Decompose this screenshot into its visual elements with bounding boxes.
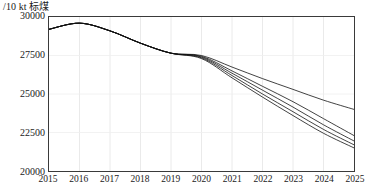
- y-axis-tick-labels: 2000022500250002750030000: [0, 0, 45, 195]
- line-chart-figure: /10 kt 标煤 2000022500250002750030000 2015…: [0, 0, 369, 195]
- series-line: [49, 23, 354, 148]
- y-axis-tick-label: 25000: [1, 89, 45, 99]
- x-axis-tick-label: 2019: [161, 174, 180, 185]
- x-axis-tick-label: 2023: [284, 174, 303, 185]
- series-line: [49, 23, 354, 145]
- y-axis-tick-label: 27500: [1, 50, 45, 60]
- x-axis-tick-label: 2016: [69, 174, 88, 185]
- x-axis-tick-label: 2021: [223, 174, 242, 185]
- x-axis-tick-label: 2017: [100, 174, 119, 185]
- data-series-lines: [49, 17, 354, 171]
- x-axis-tick-labels: 2015201620172018201920202021202220232024…: [0, 174, 369, 194]
- x-axis-tick-label: 2018: [131, 174, 150, 185]
- series-line: [49, 23, 354, 135]
- x-axis-tick-label: 2015: [39, 174, 58, 185]
- series-line: [49, 23, 354, 109]
- x-axis-tick-label: 2024: [315, 174, 334, 185]
- series-line: [49, 23, 354, 141]
- y-axis-tick-label: 22500: [1, 128, 45, 138]
- x-axis-tick-label: 2025: [346, 174, 365, 185]
- x-axis-tick-label: 2020: [192, 174, 211, 185]
- y-axis-tick-label: 30000: [1, 11, 45, 21]
- plot-area: [48, 16, 355, 172]
- x-axis-tick-label: 2022: [253, 174, 272, 185]
